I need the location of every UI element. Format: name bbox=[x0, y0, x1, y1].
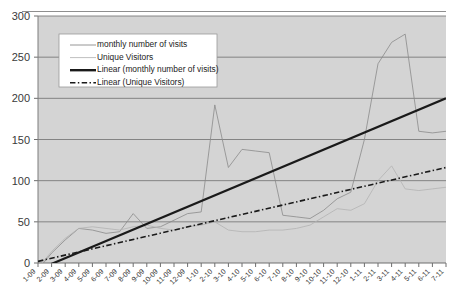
x-axis-tick-label: 6-10 bbox=[252, 267, 269, 284]
chart-legend: monthly number of visitsUnique VisitorsL… bbox=[59, 34, 219, 87]
y-axis-tick-label: 50 bbox=[18, 216, 30, 228]
x-axis-tick-label: 2-11 bbox=[361, 267, 377, 283]
legend-label: Unique Visitors bbox=[97, 52, 153, 62]
x-axis-tick-label: 3-09 bbox=[48, 267, 65, 284]
y-axis-labels: 050100150200250300 bbox=[12, 10, 30, 269]
legend-label: monthly number of visits bbox=[97, 39, 187, 49]
x-axis-tick-label: 6-11 bbox=[416, 267, 432, 283]
x-axis-tick-label: 3-10 bbox=[211, 267, 228, 284]
x-axis-ticks bbox=[38, 263, 446, 267]
x-axis-tick-label: 5-11 bbox=[402, 267, 418, 283]
x-axis-tick-label: 6-09 bbox=[89, 267, 106, 284]
x-axis-tick-label: 7-11 bbox=[429, 267, 445, 283]
x-axis-tick-label: 1-11 bbox=[348, 267, 364, 283]
x-axis-tick-label: 3-11 bbox=[375, 267, 391, 283]
x-axis-tick-label: 7-10 bbox=[266, 267, 283, 284]
y-axis-tick-label: 200 bbox=[12, 92, 30, 104]
x-axis-tick-label: 4-11 bbox=[388, 267, 404, 283]
x-axis-tick-label: 1-09 bbox=[21, 267, 38, 284]
y-axis-tick-label: 250 bbox=[12, 51, 30, 63]
x-axis-tick-label: 1-10 bbox=[184, 267, 201, 284]
y-axis-tick-label: 150 bbox=[12, 134, 30, 146]
x-axis-tick-label: 8-09 bbox=[116, 267, 133, 284]
x-axis-tick-label: 2-10 bbox=[198, 267, 215, 284]
chart-svg: 050100150200250300 1-092-093-094-095-096… bbox=[0, 0, 450, 307]
x-axis-labels: 1-092-093-094-095-096-097-098-099-0910-0… bbox=[21, 267, 446, 286]
x-axis-tick-label: 5-09 bbox=[75, 267, 92, 284]
legend-label: Linear (monthly number of visits) bbox=[97, 64, 219, 74]
x-axis-tick-label: 4-09 bbox=[62, 267, 79, 284]
y-axis-tick-label: 300 bbox=[12, 10, 30, 22]
legend-label: Linear (Unique Visitors) bbox=[97, 77, 185, 87]
y-axis-ticks bbox=[34, 16, 38, 263]
y-axis-tick-label: 100 bbox=[12, 175, 30, 187]
y-axis-tick-label: 0 bbox=[24, 257, 30, 269]
chart-container: 050100150200250300 1-092-093-094-095-096… bbox=[0, 0, 450, 307]
x-axis-tick-label: 4-10 bbox=[225, 267, 242, 284]
x-axis-tick-label: 2-09 bbox=[34, 267, 51, 284]
x-axis-tick-label: 5-10 bbox=[238, 267, 255, 284]
x-axis-tick-label: 7-09 bbox=[102, 267, 119, 284]
x-axis-tick-label: 8-10 bbox=[279, 267, 296, 284]
